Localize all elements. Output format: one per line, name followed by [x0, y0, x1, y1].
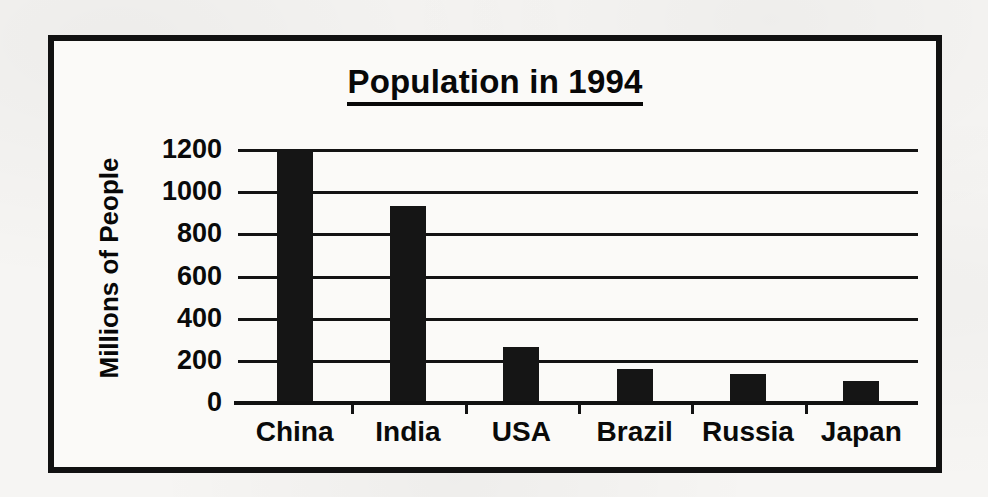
bar-slot [351, 149, 464, 402]
x-tick-label-china: China [256, 416, 334, 448]
x-tick-label-usa: USA [492, 416, 551, 448]
x-tick [805, 403, 808, 414]
x-tick-label-russia: Russia [702, 416, 794, 448]
bar-slot [465, 149, 578, 402]
y-tick-label: 400 [177, 302, 222, 333]
x-tick-label-brazil: Brazil [597, 416, 673, 448]
chart-frame: Population in 1994 Millions of People 02… [48, 35, 942, 473]
y-axis-title: Millions of People [92, 133, 126, 403]
bar-slot [578, 149, 691, 402]
x-tick [691, 403, 694, 414]
y-tick-label: 800 [177, 218, 222, 249]
bar [617, 369, 653, 402]
bar [730, 374, 766, 402]
bar [503, 347, 539, 402]
bar-series [238, 149, 918, 402]
x-axis-ticks [238, 402, 918, 414]
bar-slot [238, 149, 351, 402]
y-tick-label: 1200 [162, 134, 222, 165]
x-tick-label-india: India [375, 416, 440, 448]
y-tick-label: 0 [207, 387, 222, 418]
bar-slot [691, 149, 804, 402]
chart-title-text: Population in 1994 [347, 63, 642, 106]
bar [390, 206, 426, 402]
x-tick [351, 403, 354, 414]
x-tick-label-japan: Japan [821, 416, 902, 448]
bar [843, 381, 879, 402]
x-tick [465, 403, 468, 414]
chart-title: Population in 1994 [54, 63, 936, 101]
bar [277, 149, 313, 402]
y-tick-label: 1000 [162, 176, 222, 207]
bar-slot [805, 149, 918, 402]
x-tick [578, 403, 581, 414]
y-tick-label: 200 [177, 344, 222, 375]
x-axis-category-labels: ChinaIndiaUSABrazilRussiaJapan [238, 416, 918, 456]
plot-area: 020040060080010001200 ChinaIndiaUSABrazi… [238, 149, 918, 402]
y-tick-label: 600 [177, 260, 222, 291]
